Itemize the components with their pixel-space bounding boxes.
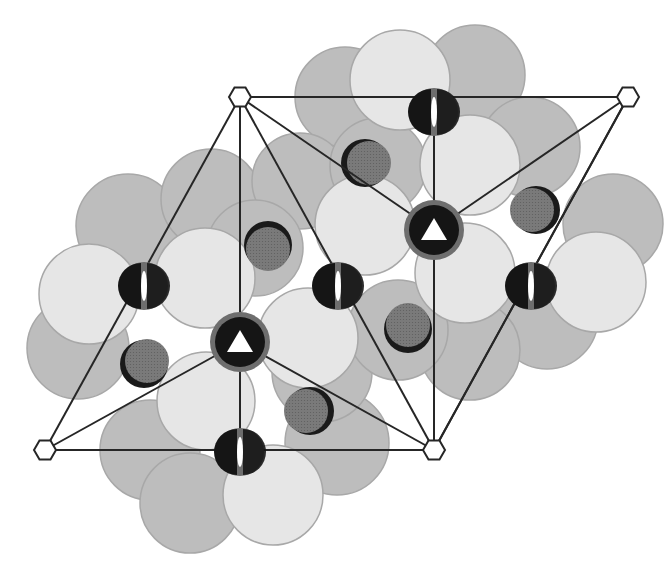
large-sphere-light <box>546 232 646 332</box>
twofold-axis-icon <box>505 262 557 310</box>
twofold-axis-icon <box>408 88 460 136</box>
sixfold-axis-icon <box>423 441 445 460</box>
twofold-axis-icon <box>312 262 364 310</box>
sixfold-axis-icon <box>229 88 251 107</box>
twofold-axis-icon <box>214 428 266 476</box>
threefold-axis-icon <box>210 312 270 372</box>
diagram-canvas <box>0 0 669 579</box>
threefold-axis-icon <box>404 200 464 260</box>
sixfold-axis-icon <box>34 441 56 460</box>
twofold-axis-icon <box>118 262 170 310</box>
sixfold-axis-icon <box>617 88 639 107</box>
crystal-structure-diagram: Hexagonal crystal structure projection w… <box>0 0 669 579</box>
